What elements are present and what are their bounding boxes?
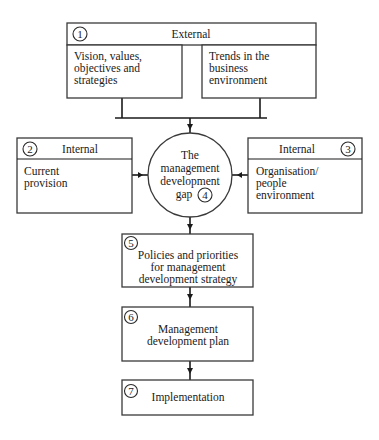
arrow-left-to-gap: [138, 172, 143, 178]
internal-left-text-line: Current: [24, 165, 60, 177]
internal-right-box: 3 Internal Organisation/ people environm…: [248, 138, 362, 213]
policies-text-line: development strategy: [139, 273, 238, 286]
policies-box: 5 Policies and priorities for management…: [122, 234, 253, 287]
arrow-gap-to-policies: [187, 224, 193, 230]
gap-text-line: The: [181, 149, 199, 161]
arrow-policies-to-plan: [187, 294, 193, 300]
plan-text-line: development plan: [147, 335, 229, 348]
step-number: 6: [128, 311, 134, 323]
step-number: 1: [77, 28, 83, 40]
internal-right-header: Internal: [279, 143, 315, 155]
step-number: 2: [27, 143, 33, 155]
trends-text-line: business: [209, 62, 249, 74]
step-number: 4: [202, 189, 208, 201]
external-header-label: External: [172, 28, 211, 40]
gap-text-line: development: [160, 175, 220, 188]
trends-text-line: environment: [209, 74, 268, 86]
gap-text-line: management: [161, 162, 221, 175]
development-plan-box: 6 Management development plan: [122, 307, 253, 361]
implementation-box: 7 Implementation: [122, 380, 253, 415]
external-box: 1 External Vision, values, objectives an…: [67, 23, 316, 98]
vision-text-line: strategies: [74, 74, 118, 87]
step-number: 3: [345, 143, 351, 155]
arrow-external-to-gap: [187, 124, 193, 130]
trends-text-line: Trends in the: [209, 50, 269, 62]
gap-text-line: gap: [176, 188, 193, 201]
internal-right-text-line: environment: [256, 189, 315, 201]
diagram-canvas: 1 External Vision, values, objectives an…: [0, 0, 379, 440]
internal-left-header: Internal: [62, 143, 98, 155]
step-number: 5: [128, 237, 134, 249]
management-gap-circle: The management development gap 4: [148, 133, 232, 217]
internal-left-box: 2 Internal Current provision: [17, 138, 132, 213]
implementation-label: Implementation: [152, 391, 225, 404]
internal-left-text-line: provision: [24, 177, 68, 190]
arrow-plan-to-implementation: [187, 368, 193, 374]
arrow-right-to-gap: [237, 172, 242, 178]
step-number: 7: [128, 385, 134, 397]
